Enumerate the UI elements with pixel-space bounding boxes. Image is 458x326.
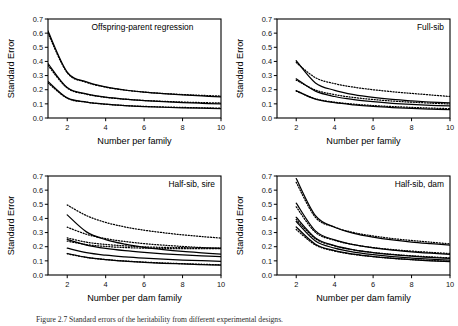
series-curve: [67, 205, 221, 238]
panel-title: Half-sib, dam: [395, 179, 444, 189]
y-tick-label: 0.7: [262, 15, 272, 24]
x-tick-label: 4: [104, 123, 108, 132]
y-tick-label: 0.6: [33, 186, 43, 195]
y-tick-label: 0.3: [33, 71, 43, 80]
panel-half-sib-dam: 0.00.10.20.30.40.50.60.7246810Half-sib, …: [229, 157, 458, 312]
y-tick-label: 0.5: [33, 43, 43, 52]
x-axis-title: Number per dam family: [316, 293, 411, 303]
x-axis-title: Number per dam family: [87, 293, 182, 303]
x-tick-label: 6: [371, 123, 375, 132]
y-tick-label: 0.5: [262, 200, 272, 209]
figure-caption: Figure 2.7 Standard errors of the herita…: [0, 311, 458, 326]
y-tick-label: 0.2: [33, 85, 43, 94]
y-tick-label: 0.3: [262, 228, 272, 237]
panel-offspring-parent-regression: 0.00.10.20.30.40.50.60.7246810Offspring-…: [0, 0, 229, 155]
y-tick-label: 0.4: [262, 214, 272, 223]
figure-container: 0.00.10.20.30.40.50.60.7246810Offspring-…: [0, 0, 458, 326]
y-tick-label: 0.1: [262, 100, 272, 109]
series-curve: [48, 33, 221, 96]
x-tick-label: 4: [104, 280, 108, 289]
x-tick-label: 2: [294, 123, 298, 132]
figure-caption-text: Figure 2.7 Standard errors of the herita…: [36, 315, 283, 324]
y-tick-label: 0.2: [33, 242, 43, 251]
x-tick-label: 10: [217, 280, 225, 289]
x-tick-label: 10: [446, 280, 454, 289]
panel-full-sib: 0.00.10.20.30.40.50.60.7246810Full-sibNu…: [229, 0, 458, 155]
y-tick-label: 0.5: [33, 200, 43, 209]
series-curve: [48, 65, 221, 103]
series-curve: [296, 91, 450, 109]
y-tick-label: 0.6: [262, 29, 272, 38]
y-tick-label: 0.0: [262, 271, 272, 280]
panel-title: Half-sib, sire: [168, 179, 215, 189]
series-curve: [67, 238, 221, 248]
y-axis-title: Standard Error: [6, 196, 16, 256]
x-tick-label: 4: [333, 280, 337, 289]
y-tick-label: 0.1: [33, 257, 43, 266]
x-axis-title: Number per family: [326, 136, 401, 146]
y-tick-label: 0.7: [33, 172, 43, 181]
panel-half-sib-sire: 0.00.10.20.30.40.50.60.7246810Half-sib, …: [0, 157, 229, 312]
x-tick-label: 4: [333, 123, 337, 132]
y-tick-label: 0.7: [262, 172, 272, 181]
y-axis-title: Standard Error: [6, 39, 16, 99]
y-tick-label: 0.4: [33, 57, 43, 66]
x-axis-title: Number per family: [97, 136, 172, 146]
y-tick-label: 0.1: [262, 257, 272, 266]
y-tick-label: 0.2: [262, 242, 272, 251]
y-tick-label: 0.6: [33, 29, 43, 38]
y-axis-title: Standard Error: [235, 196, 245, 256]
series-curve: [67, 248, 221, 261]
x-tick-label: 8: [409, 280, 413, 289]
x-tick-label: 8: [180, 123, 184, 132]
y-tick-label: 0.3: [262, 71, 272, 80]
y-tick-label: 0.1: [33, 100, 43, 109]
x-tick-label: 2: [294, 280, 298, 289]
x-tick-label: 10: [217, 123, 225, 132]
x-tick-label: 8: [180, 280, 184, 289]
y-tick-label: 0.0: [262, 114, 272, 123]
series-curve: [48, 64, 221, 104]
y-tick-label: 0.6: [262, 186, 272, 195]
panel-title: Full-sib: [417, 22, 444, 32]
y-tick-label: 0.0: [33, 114, 43, 123]
y-tick-label: 0.4: [33, 214, 43, 223]
y-tick-label: 0.5: [262, 43, 272, 52]
panel-title: Offspring-parent regression: [92, 22, 194, 32]
y-axis-title: Standard Error: [235, 39, 245, 99]
y-tick-label: 0.4: [262, 57, 272, 66]
series-curve: [48, 31, 221, 97]
x-tick-label: 8: [409, 123, 413, 132]
x-tick-label: 6: [142, 280, 146, 289]
x-tick-label: 6: [371, 280, 375, 289]
x-tick-label: 2: [65, 280, 69, 289]
y-tick-label: 0.3: [33, 228, 43, 237]
y-tick-label: 0.2: [262, 85, 272, 94]
x-tick-label: 10: [446, 123, 454, 132]
x-tick-label: 2: [65, 123, 69, 132]
y-tick-label: 0.7: [33, 15, 43, 24]
series-curve: [296, 61, 450, 103]
x-tick-label: 6: [142, 123, 146, 132]
y-tick-label: 0.0: [33, 271, 43, 280]
